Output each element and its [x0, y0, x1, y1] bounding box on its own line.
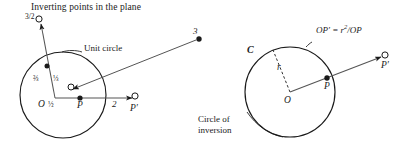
- figure-title: Inverting points in the plane: [31, 3, 141, 13]
- point-p-prime-label-right: P′: [381, 61, 389, 71]
- center-label-left: O: [38, 100, 45, 110]
- slanted-ray-to-three-halves: [41, 24, 55, 98]
- point-two-thirds: [45, 64, 50, 69]
- point-p-right: [324, 75, 329, 80]
- radius-dashed-line: [273, 50, 290, 92]
- point-one-third: [68, 84, 74, 90]
- center-label-right: O: [284, 96, 291, 106]
- caption-line-2: inversion: [198, 125, 232, 136]
- radius-label: r: [277, 63, 281, 73]
- inversion-formula: OP′ = r2/OP: [316, 25, 362, 35]
- point-p-label-left: P: [77, 101, 83, 111]
- circle-of-inversion-caption: Circle of inversion: [198, 114, 232, 136]
- formula-prefix: OP′ = r: [316, 25, 344, 35]
- unit-circle-label: Unit circle: [84, 44, 122, 53]
- formula-suffix: /OP: [347, 25, 362, 35]
- label-two: 2: [112, 99, 117, 109]
- label-three-halves: 3/2: [25, 13, 35, 21]
- inversion-figure: Inverting points in the plane Unit circl…: [0, 0, 410, 154]
- circle-c-label: C: [247, 45, 254, 55]
- formula-leader-line: [306, 42, 312, 47]
- label-two-thirds: ⅔: [33, 75, 39, 83]
- label-three: 3: [193, 26, 198, 36]
- caption-line-1: Circle of: [198, 114, 232, 125]
- label-one-half: ½: [48, 101, 54, 109]
- label-one-third: ⅓: [53, 75, 59, 83]
- unit-circle-outline: [20, 52, 106, 138]
- point-p-prime-label-left: P′: [130, 104, 138, 114]
- point-three: [196, 36, 201, 41]
- point-p-prime-left: [132, 93, 138, 99]
- ray-o-to-p-prime-right: [290, 57, 381, 92]
- point-p-prime-right: [382, 52, 388, 58]
- point-p-label-right: P: [324, 82, 330, 92]
- point-three-halves: [36, 16, 42, 22]
